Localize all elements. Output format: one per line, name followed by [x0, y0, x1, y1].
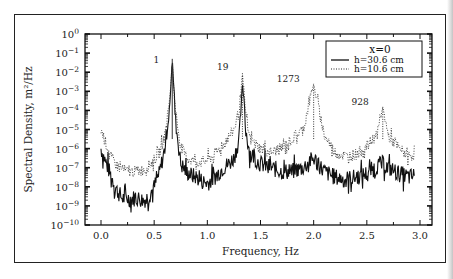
y-tick-label: 10−8: [55, 180, 79, 193]
y-tick-label: 10−6: [55, 142, 79, 155]
y-tick-exponent: −7: [68, 161, 79, 170]
peak-annotation: 1: [154, 55, 160, 65]
page-edge-shadow: [447, 0, 453, 279]
x-tick-label: 0.0: [93, 230, 109, 241]
y-axis-label: Spectral Density, m²/Hz: [22, 66, 34, 193]
x-tick-label: 3.0: [412, 230, 428, 241]
x-tick-label: 1.0: [199, 230, 215, 241]
y-tick-label: 100: [61, 27, 79, 40]
x-tick-label: 0.5: [146, 230, 162, 241]
y-tick-exponent: −5: [68, 123, 79, 132]
y-tick-exponent: −6: [68, 142, 79, 151]
x-tick-label: 2.5: [359, 230, 375, 241]
peak-annotation: 19: [217, 62, 229, 72]
series-h30-6-solid: [101, 63, 414, 213]
y-tick-exponent: −1: [68, 46, 79, 55]
y-tick-label: 10−1: [55, 46, 79, 59]
y-tick-exponent: −2: [68, 65, 79, 74]
y-tick-label: 10−2: [55, 65, 79, 78]
y-tick-exponent: −9: [68, 199, 79, 208]
y-tick-label: 10−3: [55, 84, 79, 97]
y-tick-exponent: −4: [68, 103, 79, 112]
y-tick-exponent: −8: [68, 180, 79, 189]
y-tick-label: 10−7: [55, 161, 79, 174]
x-axis-label: Frequency, Hz: [222, 245, 299, 257]
peak-annotation: 928: [352, 97, 369, 107]
peak-annotation: 1273: [277, 74, 300, 84]
y-tick-label: 10−5: [55, 123, 79, 136]
legend-title: x=0: [369, 43, 390, 55]
y-tick-label: 10−4: [55, 103, 79, 116]
y-tick-label: 10−10: [50, 218, 79, 231]
y-tick-exponent: 0: [74, 27, 79, 36]
spectral-density-chart: 0.00.51.01.52.02.53.010010−110−210−310−4…: [0, 0, 453, 279]
y-tick-label: 10−9: [55, 199, 79, 212]
legend-entry-label: h=10.6 cm: [354, 64, 404, 74]
x-tick-label: 2.0: [306, 230, 322, 241]
x-tick-label: 1.5: [253, 230, 269, 241]
y-tick-exponent: −3: [68, 84, 79, 93]
y-tick-exponent: −10: [63, 218, 79, 227]
